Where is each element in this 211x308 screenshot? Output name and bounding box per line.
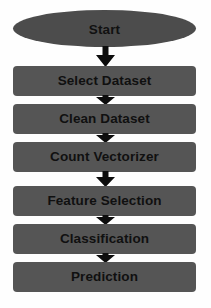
down-block-arrow-icon — [96, 46, 115, 67]
flow-node-count-vectorizer[interactable]: Count Vectorizer — [13, 142, 196, 172]
flow-node-classification-label: Classification — [60, 232, 149, 246]
flow-node-prediction-label: Prediction — [71, 270, 138, 284]
flow-node-clean-dataset[interactable]: Clean Dataset — [13, 104, 196, 134]
flow-node-feature-selection[interactable]: Feature Selection — [13, 186, 196, 216]
flowchart-diagram: Start Select Dataset Clean Dataset Count… — [0, 0, 211, 308]
flow-node-prediction[interactable]: Prediction — [13, 262, 196, 292]
flow-node-start[interactable]: Start — [13, 10, 196, 47]
flow-node-count-vectorizer-label: Count Vectorizer — [50, 150, 159, 164]
flow-node-select-dataset[interactable]: Select Dataset — [13, 66, 196, 96]
flow-node-clean-dataset-label: Clean Dataset — [59, 112, 150, 126]
flow-node-select-dataset-label: Select Dataset — [58, 74, 152, 88]
down-block-arrow-icon — [96, 171, 115, 187]
flow-node-classification[interactable]: Classification — [13, 224, 196, 254]
flow-node-feature-selection-label: Feature Selection — [47, 194, 161, 208]
flow-node-start-label: Start — [89, 23, 120, 37]
